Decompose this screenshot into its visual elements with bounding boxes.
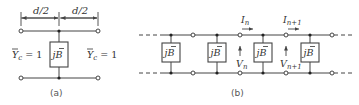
susceptance-element: jB <box>162 43 180 62</box>
caption-a: (a) <box>50 88 63 98</box>
svg-text:jB: jB <box>209 47 221 58</box>
current-label-n: In <box>240 14 253 29</box>
svg-text:Vn+1: Vn+1 <box>280 58 302 71</box>
svg-text:Yc = 1: Yc = 1 <box>12 49 42 62</box>
susceptance-element: jB <box>208 43 226 62</box>
svg-text:In: In <box>240 14 250 27</box>
svg-text:jB: jB <box>163 47 175 58</box>
svg-text:Yc = 1: Yc = 1 <box>87 49 117 62</box>
current-label-n-plus-1: In+1 <box>282 14 302 29</box>
svg-text:Vn: Vn <box>236 58 248 71</box>
admittance-label-left: Yc = 1 <box>12 49 42 62</box>
svg-text:In+1: In+1 <box>282 14 302 27</box>
element-label: jB <box>51 49 63 60</box>
svg-text:jB: jB <box>302 47 314 58</box>
admittance-label-right: Yc = 1 <box>87 49 117 62</box>
caption-b: (b) <box>231 88 244 98</box>
diagram-canvas: d/2 d/2 jB Yc = 1 <box>0 0 359 105</box>
susceptance-element: jB <box>301 43 319 62</box>
svg-text:jB: jB <box>255 47 267 58</box>
voltage-label-n: Vn <box>236 46 248 71</box>
dimension-label-left: d/2 <box>33 5 49 16</box>
figure-a: d/2 d/2 jB Yc = 1 <box>12 5 117 98</box>
figure-b: jB jB jB jB In In+1 Vn <box>139 14 352 98</box>
voltage-label-n-plus-1: Vn+1 <box>280 46 302 71</box>
dimension-label-right: d/2 <box>72 5 88 16</box>
susceptance-element: jB <box>50 42 68 67</box>
susceptance-element: jB <box>254 43 272 62</box>
